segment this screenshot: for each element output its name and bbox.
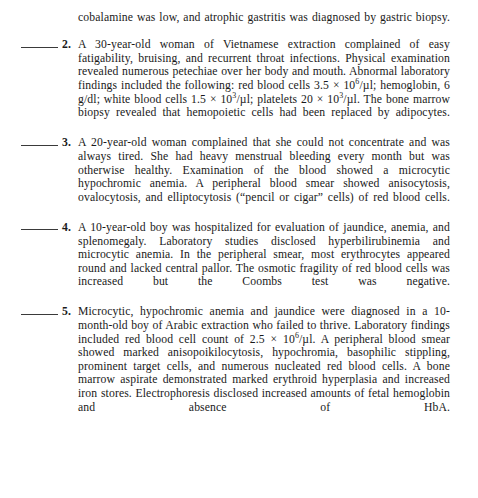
superscript-exponent: 3 bbox=[339, 91, 343, 100]
question-item: 4.A 10-year-old boy was hospitalized for… bbox=[0, 221, 478, 303]
superscript-exponent: 6 bbox=[355, 77, 359, 86]
question-number: 5. bbox=[62, 305, 71, 319]
question-number: 3. bbox=[62, 136, 71, 150]
answer-blank-rule[interactable] bbox=[21, 145, 58, 146]
question-text: A 30-year-old woman of Vietnamese extrac… bbox=[78, 38, 450, 133]
continued-paragraph: cobalamine was low, and atrophic gastrit… bbox=[0, 11, 478, 38]
superscript-exponent: 6 bbox=[295, 331, 299, 340]
question-item: 5.Microcytic, hypochromic anemia and jau… bbox=[0, 305, 478, 427]
document-page: cobalamine was low, and atrophic gastrit… bbox=[0, 0, 478, 498]
question-item: 2.A 30-year-old woman of Vietnamese extr… bbox=[0, 38, 478, 133]
question-item: 3.A 20-year-old woman complained that sh… bbox=[0, 136, 478, 218]
question-number: 2. bbox=[62, 38, 71, 52]
question-number: 4. bbox=[62, 221, 71, 235]
superscript-exponent: 3 bbox=[232, 91, 236, 100]
answer-blank-rule[interactable] bbox=[21, 314, 58, 315]
question-list: 2.A 30-year-old woman of Vietnamese extr… bbox=[0, 38, 478, 428]
answer-blank-rule[interactable] bbox=[21, 229, 58, 230]
page-content: cobalamine was low, and atrophic gastrit… bbox=[0, 11, 478, 428]
question-text: Microcytic, hypochromic anemia and jaund… bbox=[78, 305, 450, 427]
question-text: A 20-year-old woman complained that she … bbox=[78, 136, 450, 218]
question-text: A 10-year-old boy was hospitalized for e… bbox=[78, 221, 450, 303]
answer-blank-rule[interactable] bbox=[21, 47, 58, 48]
